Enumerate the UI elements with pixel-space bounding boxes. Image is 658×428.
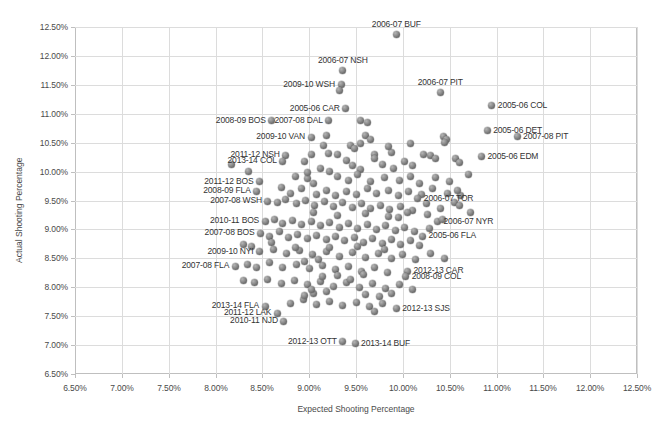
data-point [336,87,343,94]
y-tick-label: 12.00% [23,51,68,61]
x-tick-mark [75,374,76,378]
y-tick-mark [71,374,75,375]
x-tick-label: 10.50% [425,383,475,393]
data-point [232,263,239,270]
data-point [364,119,371,126]
data-point [301,292,308,299]
data-point [353,299,360,306]
data-point [308,218,315,225]
data-point [308,134,315,141]
data-point [289,217,296,224]
data-point [326,298,333,305]
data-point [395,192,402,199]
data-point [270,246,277,253]
data-point [304,235,311,242]
data-point [381,246,388,253]
data-point [396,177,403,184]
data-point [244,261,251,268]
data-point [336,224,343,231]
data-point [349,249,356,256]
y-tick-label: 11.00% [23,109,68,119]
point-label: 2012-13 SJS [402,303,450,313]
y-tick-mark [71,316,75,317]
y-tick-mark [71,114,75,115]
point-label: 2007-08 FLA [149,260,229,270]
data-point [240,277,247,284]
data-point [313,232,320,239]
y-tick-mark [71,143,75,144]
y-tick-label: 10.00% [23,167,68,177]
data-point [334,272,341,279]
y-tick-label: 7.50% [23,311,68,321]
data-point [432,174,439,181]
data-point [271,216,278,223]
point-label: 2012-13 OTT [257,336,337,346]
data-point [373,226,380,233]
x-axis-title: Expected Shooting Percentage [286,404,426,414]
data-point [293,261,300,268]
scatter-chart: Expected Shooting Percentage Actual Shoo… [0,0,658,428]
x-tick-label: 10.00% [378,383,428,393]
x-tick-mark [543,374,544,378]
x-tick-mark [450,374,451,378]
y-tick-mark [71,201,75,202]
x-tick-label: 9.50% [331,383,381,393]
data-point [465,171,472,178]
data-point [343,157,350,164]
point-label: 2007-08 PIT [523,131,568,141]
y-tick-label: 8.50% [23,253,68,263]
x-tick-mark [262,374,263,378]
y-tick-label: 8.00% [23,282,68,292]
data-point [323,236,330,243]
data-point [351,145,358,152]
x-tick-label: 11.50% [518,383,568,393]
data-point [323,132,330,139]
x-tick-label: 9.00% [284,383,334,393]
data-point [351,234,358,241]
data-point [478,153,485,160]
data-point [253,264,260,271]
data-point [294,231,301,238]
data-point [360,239,367,246]
data-point [285,234,292,241]
data-point [393,31,400,38]
data-point [377,202,384,209]
data-point [278,280,285,287]
y-tick-mark [71,258,75,259]
data-point [268,239,275,246]
data-point [416,180,423,187]
data-point [407,173,414,180]
data-point [396,281,403,288]
data-point [262,218,269,225]
point-label: 2009-10 WSH [255,79,335,89]
point-label: 2005-06 COL [498,100,547,110]
data-point [245,168,252,175]
data-point [352,340,359,347]
data-point [347,276,354,283]
data-point [441,255,448,262]
point-label: 2006-07 NYR [443,216,493,226]
data-point [379,300,386,307]
data-point [437,205,444,212]
y-tick-label: 12.50% [23,22,68,32]
y-tick-mark [71,345,75,346]
x-tick-mark [497,374,498,378]
data-point [362,254,369,261]
data-point [292,173,299,180]
point-label: 2006-07 NSH [313,55,373,65]
data-point [276,228,283,235]
data-point [401,224,408,231]
y-gridline [75,27,637,28]
data-point [278,184,285,191]
data-point [404,209,411,216]
x-tick-label: 11.00% [472,383,522,393]
x-tick-label: 6.50% [50,383,100,393]
point-label: 2005-06 CAR [260,103,340,113]
point-label: 2009-10 VAN [225,131,305,141]
y-tick-mark [71,287,75,288]
data-point [362,291,369,298]
data-point [336,253,343,260]
y-tick-mark [71,85,75,86]
point-label: 2006-07 PIT [410,77,470,87]
x-tick-mark [169,374,170,378]
